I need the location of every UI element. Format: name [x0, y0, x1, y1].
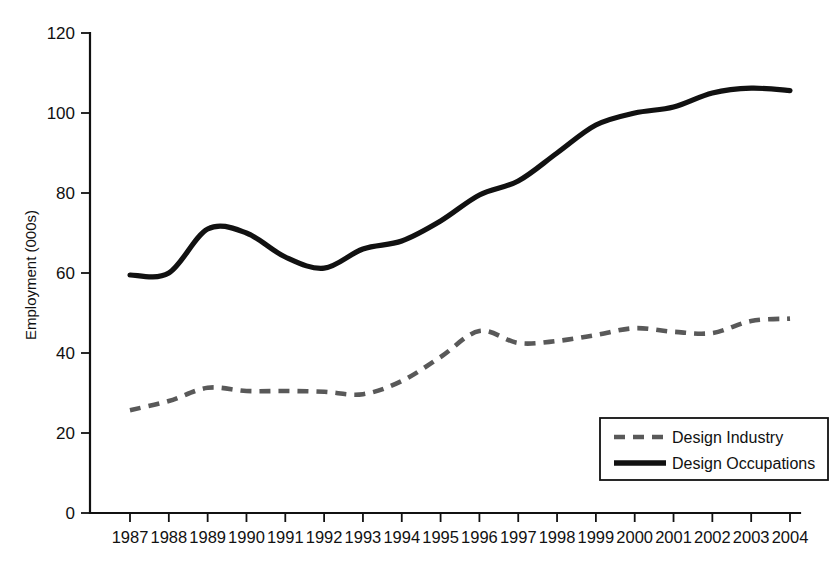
- y-tick-label: 80: [56, 184, 75, 203]
- x-tick-label: 1996: [461, 528, 498, 546]
- series-line-design-occupations: [130, 88, 790, 277]
- x-tick-label: 1994: [383, 528, 420, 546]
- x-tick-label: 2001: [655, 528, 692, 546]
- x-tick-label: 1995: [422, 528, 459, 546]
- x-tick-label: 1988: [150, 528, 187, 546]
- x-tick-label: 1992: [306, 528, 343, 546]
- x-tick-group: 1987198819891990199119921993199419951996…: [112, 513, 809, 546]
- y-tick-label: 20: [56, 424, 75, 443]
- x-tick-label: 1993: [345, 528, 382, 546]
- y-tick-label: 40: [56, 344, 75, 363]
- legend-label: Design Industry: [672, 429, 783, 446]
- x-tick-label: 2000: [616, 528, 653, 546]
- x-tick-label: 1990: [228, 528, 265, 546]
- x-tick-label: 1999: [578, 528, 615, 546]
- x-tick-label: 1987: [112, 528, 149, 546]
- series-group: [130, 88, 790, 410]
- x-tick-label: 1998: [539, 528, 576, 546]
- line-chart: Employment (000s) 020406080100120 198719…: [0, 0, 840, 569]
- x-tick-label: 2003: [733, 528, 770, 546]
- y-tick-label: 0: [66, 504, 75, 523]
- y-axis-title: Employment (000s): [22, 210, 39, 340]
- series-line-design-industry: [130, 319, 790, 411]
- x-axis: 1987198819891990199119921993199419951996…: [90, 513, 808, 546]
- y-tick-label: 120: [47, 24, 75, 43]
- y-tick-label: 60: [56, 264, 75, 283]
- y-axis-title-group: Employment (000s): [22, 210, 39, 340]
- chart-container: Employment (000s) 020406080100120 198719…: [0, 0, 840, 569]
- x-tick-label: 2002: [694, 528, 731, 546]
- y-axis: 020406080100120: [47, 24, 90, 523]
- x-tick-label: 1991: [267, 528, 304, 546]
- legend-label: Design Occupations: [672, 455, 815, 472]
- y-tick-label: 100: [47, 104, 75, 123]
- chart-legend: Design IndustryDesign Occupations: [600, 418, 828, 480]
- y-tick-group: 020406080100120: [47, 24, 90, 523]
- x-tick-label: 1989: [189, 528, 226, 546]
- x-tick-label: 2004: [772, 528, 809, 546]
- x-tick-label: 1997: [500, 528, 537, 546]
